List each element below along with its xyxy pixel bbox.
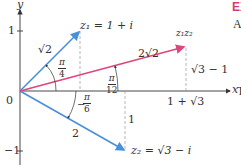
product-modulus: 2√2: [138, 48, 159, 59]
side-text-line1: A: [233, 17, 241, 32]
z2-vector: [20, 91, 124, 150]
origin-label: 0: [6, 95, 13, 106]
z1-label: z₁ = 1 + i: [80, 20, 133, 31]
product-angle: π 12: [106, 74, 117, 95]
y-tick-1: 1: [8, 25, 15, 36]
product-x-value: 1 + √3: [167, 96, 204, 107]
y-tick-neg1: −1: [4, 145, 20, 156]
product-y-value: √3 − 1: [191, 64, 228, 75]
z2-modulus: 2: [72, 128, 79, 139]
z1-vector: [20, 32, 79, 91]
side-text-line2: T: [237, 84, 241, 99]
z2-label: z₂ = √3 − i: [131, 145, 191, 156]
z2-y-value: 1: [128, 114, 135, 125]
example-heading: EX: [232, 0, 241, 14]
z1-modulus: √2: [38, 44, 52, 55]
complex-plane-diagram: y x 1 −1 0 z₁ = 1 + i √2 π 4 z₁z₂ 2√2 π …: [0, 0, 241, 167]
y-axis-label: y: [17, 0, 23, 10]
z2-angle: π 6: [83, 93, 91, 114]
product-label: z₁z₂: [176, 29, 193, 38]
z1-angle: π 4: [58, 58, 66, 79]
